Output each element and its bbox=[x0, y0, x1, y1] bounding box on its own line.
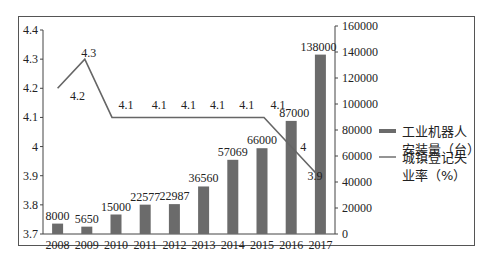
x-tick-label: 2015 bbox=[250, 238, 274, 252]
line-value-label: 4.1 bbox=[119, 98, 134, 112]
x-tick-label: 2014 bbox=[221, 238, 245, 252]
x-tick-label: 2010 bbox=[104, 238, 128, 252]
bar bbox=[140, 205, 151, 234]
bar bbox=[257, 148, 268, 234]
combo-chart: 3.73.83.944.14.24.34.4020000400006000080… bbox=[0, 0, 490, 270]
bar bbox=[111, 215, 122, 235]
left-tick-label: 4.3 bbox=[23, 52, 38, 66]
right-tick-label: 0 bbox=[342, 227, 348, 241]
x-tick-label: 2008 bbox=[46, 238, 70, 252]
bar bbox=[286, 121, 297, 234]
right-tick-label: 120000 bbox=[342, 71, 378, 85]
left-tick-label: 3.7 bbox=[23, 227, 38, 241]
line-value-label: 4.3 bbox=[81, 46, 96, 60]
line-value-label: 4 bbox=[300, 140, 306, 154]
right-tick-label: 20000 bbox=[342, 201, 372, 215]
legend-label-unemployment-1: 城镇登记失 bbox=[402, 150, 467, 165]
bar-value-label: 138000 bbox=[300, 40, 336, 54]
bar-value-label: 15000 bbox=[101, 200, 131, 214]
right-tick-label: 40000 bbox=[342, 175, 372, 189]
line-value-label: 4.1 bbox=[181, 98, 196, 112]
legend-label-robots-1: 工业机器人 bbox=[402, 124, 467, 139]
x-tick-label: 2011 bbox=[133, 238, 157, 252]
bar-value-label: 5650 bbox=[75, 212, 99, 226]
bar-value-label: 22577 bbox=[130, 190, 160, 204]
bar bbox=[52, 224, 63, 234]
x-tick-label: 2016 bbox=[279, 238, 303, 252]
x-tick-label: 2009 bbox=[75, 238, 99, 252]
bar bbox=[227, 160, 238, 234]
line-value-label: 4.1 bbox=[210, 98, 225, 112]
line-value-label: 3.9 bbox=[308, 169, 323, 183]
bar-value-label: 8000 bbox=[46, 209, 70, 223]
left-tick-label: 3.8 bbox=[23, 198, 38, 212]
bar-value-label: 22987 bbox=[159, 189, 189, 203]
legend-label-unemployment-2: 业率（%） bbox=[402, 168, 466, 183]
x-tick-label: 2017 bbox=[308, 238, 332, 252]
right-tick-label: 140000 bbox=[342, 45, 378, 59]
left-tick-label: 4.4 bbox=[23, 23, 38, 37]
bar bbox=[315, 55, 326, 234]
right-tick-label: 80000 bbox=[342, 123, 372, 137]
right-tick-label: 60000 bbox=[342, 149, 372, 163]
line-value-label: 4.1 bbox=[239, 98, 254, 112]
left-tick-label: 4.1 bbox=[23, 110, 38, 124]
bar bbox=[198, 186, 209, 234]
bar-value-label: 57069 bbox=[218, 145, 248, 159]
x-tick-label: 2013 bbox=[192, 238, 216, 252]
x-tick-label: 2012 bbox=[162, 238, 186, 252]
bar bbox=[81, 227, 92, 234]
line-value-label: 4.1 bbox=[271, 98, 286, 112]
bar-value-label: 36560 bbox=[189, 171, 219, 185]
right-tick-label: 160000 bbox=[342, 19, 378, 33]
left-tick-label: 4 bbox=[32, 140, 38, 154]
left-tick-label: 3.9 bbox=[23, 169, 38, 183]
bar-value-label: 66000 bbox=[247, 133, 277, 147]
right-tick-label: 100000 bbox=[342, 97, 378, 111]
line-value-label: 4.1 bbox=[152, 98, 167, 112]
left-tick-label: 4.2 bbox=[23, 81, 38, 95]
line-value-label: 4.2 bbox=[70, 89, 85, 103]
bar bbox=[169, 204, 180, 234]
